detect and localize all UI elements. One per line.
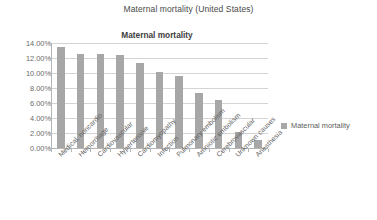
- y-axis: 0.00%2.00%4.00%6.00%8.00%10.00%12.00%14.…: [0, 0, 51, 220]
- y-axis-tick-label: 6.00%: [5, 99, 51, 108]
- x-axis-tick-mark: [169, 149, 170, 152]
- x-axis-tick-mark: [229, 149, 230, 152]
- chart-legend: Maternal mortality: [281, 121, 350, 130]
- x-axis-tick-mark: [51, 149, 52, 152]
- x-axis-tick-mark: [110, 149, 111, 152]
- y-axis-tick-label: 0.00%: [5, 144, 51, 153]
- y-axis-tick-label: 2.00%: [5, 129, 51, 138]
- legend-swatch-maternal-mortality: [281, 123, 287, 129]
- y-axis-tick-label: 14.00%: [5, 39, 51, 48]
- x-axis-tick-mark: [130, 149, 131, 152]
- y-axis-tick-label: 8.00%: [5, 84, 51, 93]
- x-axis-tick-mark: [71, 149, 72, 152]
- bar[interactable]: [57, 47, 65, 148]
- chart-title: Maternal mortality: [44, 30, 270, 40]
- x-axis-tick-mark: [189, 149, 190, 152]
- y-axis-line: [51, 43, 52, 149]
- y-axis-tick-label: 12.00%: [5, 54, 51, 63]
- chart-figure: Maternal mortality (United States) Mater…: [0, 0, 377, 220]
- y-axis-tick-label: 4.00%: [5, 114, 51, 123]
- figure-caption: Maternal mortality (United States): [0, 4, 377, 14]
- x-axis-tick-mark: [90, 149, 91, 152]
- x-axis-tick-mark: [248, 149, 249, 152]
- x-axis-tick-mark: [268, 149, 269, 152]
- legend-label-maternal-mortality: Maternal mortality: [291, 121, 350, 130]
- gridline: [51, 43, 268, 44]
- y-axis-tick-label: 10.00%: [5, 69, 51, 78]
- x-axis-tick-mark: [150, 149, 151, 152]
- x-axis-tick-mark: [209, 149, 210, 152]
